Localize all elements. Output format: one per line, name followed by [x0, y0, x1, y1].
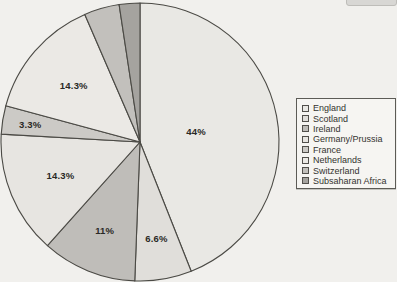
legend-swatch-ireland [302, 125, 309, 132]
legend-list: EnglandScotlandIrelandGermany/PrussiaFra… [302, 103, 393, 186]
legend-swatch-subsaharan-africa [302, 177, 309, 184]
legend-item-netherlands: Netherlands [302, 155, 393, 165]
legend-swatch-netherlands [302, 157, 309, 164]
legend-item-scotland: Scotland [302, 113, 393, 123]
legend-label-germany-prussia: Germany/Prussia [313, 134, 383, 144]
legend-label-scotland: Scotland [313, 114, 348, 124]
legend-swatch-switzerland [302, 167, 309, 174]
legend-item-switzerland: Switzerland [302, 165, 393, 175]
legend-label-switzerland: Switzerland [313, 166, 360, 176]
legend-label-ireland: Ireland [313, 124, 341, 134]
legend-label-england: England [313, 103, 346, 113]
legend-swatch-france [302, 146, 309, 153]
legend-label-france: France [313, 145, 341, 155]
legend-item-england: England [302, 103, 393, 113]
legend-label-netherlands: Netherlands [313, 155, 362, 165]
legend-item-france: France [302, 145, 393, 155]
legend-item-ireland: Ireland [302, 124, 393, 134]
legend-item-subsaharan-africa: Subsaharan Africa [302, 176, 393, 186]
legend-box: EnglandScotlandIrelandGermany/PrussiaFra… [296, 98, 396, 189]
legend-swatch-germany-prussia [302, 136, 309, 143]
legend-item-germany-prussia: Germany/Prussia [302, 134, 393, 144]
cropped-ui-fragment [346, 0, 397, 6]
legend-swatch-scotland [302, 115, 309, 122]
legend-swatch-england [302, 105, 309, 112]
pie-chart-figure: 44%6.6%11%14.3%3.3%14.3% EnglandScotland… [0, 0, 397, 282]
legend-label-subsaharan-africa: Subsaharan Africa [313, 176, 387, 186]
